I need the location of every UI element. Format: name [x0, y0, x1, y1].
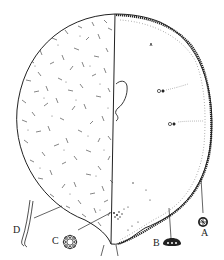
inset-a-rosette-icon: [198, 217, 208, 227]
midline: [111, 14, 115, 244]
inset-b-dome-icon: [163, 238, 181, 246]
internal-organelles: [150, 43, 175, 126]
inner-dotted-line: [120, 20, 205, 240]
label-a: A: [201, 228, 208, 238]
contractile-vacuole: [116, 81, 128, 114]
dotted-canal-lower: [178, 121, 204, 122]
oral-region: [113, 182, 150, 230]
vacuole-pore: [116, 114, 118, 121]
leader-lines: [34, 178, 203, 238]
inset-c-ring-icon: [63, 235, 77, 249]
granule-texture: [22, 20, 113, 226]
posterior-cilia: [101, 245, 118, 256]
label-d: D: [13, 225, 20, 235]
cell-diagram: [0, 0, 224, 260]
dotted-canal-upper: [166, 84, 188, 90]
inset-d-rods-icon: [22, 200, 33, 247]
label-b: B: [153, 238, 160, 248]
label-c: C: [52, 236, 59, 246]
pellicle-margin: [116, 15, 211, 244]
